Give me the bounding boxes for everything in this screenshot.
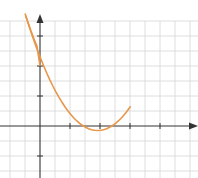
- grid: [0, 21, 198, 178]
- x-axis-arrow-icon: [189, 123, 198, 130]
- y-axis-arrow-icon: [37, 14, 44, 23]
- graph: [0, 0, 198, 178]
- x-axis: [0, 123, 198, 130]
- y-axis: [37, 14, 44, 178]
- coordinate-plane: [0, 0, 198, 178]
